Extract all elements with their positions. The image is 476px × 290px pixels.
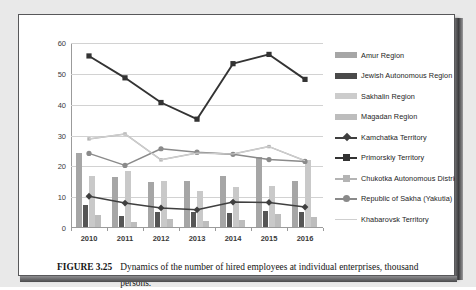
legend-marker-icon bbox=[343, 195, 350, 202]
line-series bbox=[89, 134, 305, 161]
legend-line-icon bbox=[335, 213, 357, 225]
data-point-marker bbox=[86, 193, 93, 200]
x-tick-mark bbox=[143, 228, 144, 231]
legend-item-label: Kamchatka Territory bbox=[361, 133, 427, 142]
x-tick-mark bbox=[251, 228, 252, 231]
data-point-marker bbox=[266, 52, 271, 57]
legend-marker-icon bbox=[343, 154, 350, 161]
x-tick-mark bbox=[287, 228, 288, 231]
x-tick-label: 2012 bbox=[153, 234, 170, 243]
x-tick-label: 2010 bbox=[81, 234, 98, 243]
y-tick-label: 10 bbox=[58, 193, 66, 202]
data-point-marker bbox=[266, 199, 273, 206]
legend-swatch-icon bbox=[335, 70, 357, 82]
legend-item-label: Magadan Region bbox=[361, 112, 417, 121]
plot-area: 0102030405060 20102011201220132014201520… bbox=[71, 43, 323, 228]
legend-swatch-icon bbox=[335, 93, 357, 99]
x-tick-mark bbox=[179, 228, 180, 231]
legend-item-label: Jewish Autonomous Region bbox=[361, 71, 452, 80]
data-point-marker bbox=[194, 117, 199, 122]
legend-item-label: Chukotka Autonomous District bbox=[361, 174, 460, 183]
data-point-marker bbox=[122, 75, 127, 80]
legend-swatch-icon bbox=[335, 73, 357, 79]
x-tick-mark bbox=[323, 228, 324, 231]
x-tick-label: 2013 bbox=[189, 234, 206, 243]
legend-item-label: Sakhalin Region bbox=[361, 92, 415, 101]
y-tick-label: 40 bbox=[58, 100, 66, 109]
x-tick-label: 2015 bbox=[261, 234, 278, 243]
data-point-marker bbox=[158, 146, 163, 151]
data-point-marker bbox=[230, 61, 235, 66]
data-point-marker bbox=[302, 204, 309, 211]
x-tick-label: 2011 bbox=[117, 234, 133, 243]
line-series-layer bbox=[71, 43, 323, 228]
legend-swatch-icon bbox=[335, 114, 357, 120]
line-series bbox=[89, 54, 305, 119]
y-tick-label: 60 bbox=[58, 39, 66, 48]
data-point-marker bbox=[266, 157, 271, 162]
data-point-marker bbox=[194, 206, 201, 213]
legend-item-label: Khabarovsk Territory bbox=[361, 215, 429, 224]
page-card: 0102030405060 20102011201220132014201520… bbox=[18, 14, 455, 276]
legend-line-icon bbox=[335, 172, 357, 184]
data-point-marker bbox=[122, 163, 127, 168]
legend-item-label: Amur Region bbox=[361, 51, 404, 60]
data-point-marker bbox=[158, 100, 163, 105]
page-edge-right bbox=[455, 18, 463, 280]
legend-marker-icon bbox=[343, 175, 350, 182]
page-edge-bottom bbox=[20, 276, 457, 282]
legend-swatch-icon bbox=[335, 111, 357, 123]
data-point-marker bbox=[122, 200, 129, 207]
data-point-marker bbox=[86, 53, 91, 58]
x-tick-mark bbox=[71, 228, 72, 231]
legend-line-icon bbox=[335, 193, 357, 205]
y-tick-label: 20 bbox=[58, 162, 66, 171]
legend-item-label: Primorskiy Territory bbox=[361, 153, 424, 162]
data-point-marker bbox=[230, 199, 237, 206]
y-tick-label: 30 bbox=[58, 131, 66, 140]
data-point-marker bbox=[302, 77, 307, 82]
y-tick-label: 50 bbox=[58, 69, 66, 78]
legend-line-icon bbox=[335, 152, 357, 164]
x-tick-label: 2016 bbox=[297, 234, 314, 243]
x-tick-mark bbox=[215, 228, 216, 231]
legend-item-label: Republic of Sakha (Yakutia) bbox=[361, 194, 452, 203]
y-tick-label: 0 bbox=[62, 224, 66, 233]
x-tick-label: 2014 bbox=[225, 234, 242, 243]
x-tick-mark bbox=[107, 228, 108, 231]
legend-swatch-icon bbox=[335, 52, 357, 58]
data-point-marker bbox=[158, 205, 165, 212]
figure-label: FIGURE 3.25 bbox=[57, 262, 112, 272]
legend-swatch-icon bbox=[335, 49, 357, 61]
legend-marker-icon bbox=[342, 133, 350, 141]
data-point-marker bbox=[86, 151, 91, 156]
legend-swatch-icon bbox=[335, 90, 357, 102]
chart-container: 0102030405060 20102011201220132014201520… bbox=[39, 23, 439, 253]
legend-line-icon bbox=[335, 131, 357, 143]
legend-line-icon bbox=[335, 219, 357, 220]
